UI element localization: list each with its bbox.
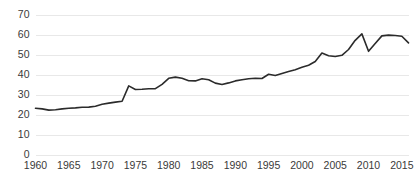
y-tick-label: 70 (18, 8, 30, 20)
data-series-group (36, 34, 409, 110)
series-line (36, 34, 409, 110)
line-chart: 010203040506070 196019651970197519801985… (0, 0, 414, 187)
y-tick-label: 60 (18, 28, 30, 40)
y-tick-label: 30 (18, 88, 30, 100)
x-tick-label: 2005 (324, 159, 348, 171)
y-tick-label: 40 (18, 68, 30, 80)
y-tick-label: 50 (18, 48, 30, 60)
x-tick-label: 2000 (290, 159, 314, 171)
x-axis-tick-labels: 1960196519701975198019851990199520002005… (24, 159, 414, 171)
x-tick-label: 1970 (90, 159, 114, 171)
x-tick-label: 1965 (57, 159, 81, 171)
x-tick-label: 1960 (24, 159, 48, 171)
y-tick-label: 10 (18, 128, 30, 140)
x-tick-label: 1990 (224, 159, 248, 171)
x-tick-label: 1975 (124, 159, 148, 171)
y-axis-tick-labels: 010203040506070 (18, 8, 30, 160)
chart-canvas: 010203040506070 196019651970197519801985… (0, 0, 414, 187)
x-tick-label: 1980 (157, 159, 181, 171)
x-tick-label: 2015 (390, 159, 414, 171)
x-tick-label: 2010 (357, 159, 381, 171)
y-tick-label: 20 (18, 108, 30, 120)
gridlines-group (36, 16, 409, 156)
x-tick-label: 1985 (190, 159, 214, 171)
x-tick-label: 1995 (257, 159, 281, 171)
